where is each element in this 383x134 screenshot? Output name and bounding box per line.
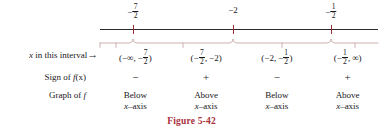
fraction: 72 (143, 49, 149, 65)
fraction-denominator: 2 (331, 12, 337, 20)
interval-left: −2 (264, 53, 274, 63)
row-graph-cells: Belowx–axis Abovex–axis Belowx–axis Abov… (100, 90, 383, 112)
axis-suffix: –axis (128, 101, 147, 111)
figure-caption: Figure 5-42 (0, 116, 383, 126)
axis-tick-3 (331, 25, 332, 34)
axis-suffix: –axis (199, 101, 218, 111)
fraction-denominator: 2 (342, 58, 348, 66)
fraction-denominator: 2 (199, 58, 205, 66)
comma: , (274, 53, 276, 63)
graph-axis-ref: x–axis (242, 101, 313, 112)
axis-tick-label-2-value: −2 (228, 5, 238, 15)
row-sign-label: Sign of f(x) (0, 72, 100, 82)
interval-cell-2: (−72, −2) (171, 49, 242, 65)
graph-axis-ref: x–axis (312, 101, 383, 112)
paren-close: ) (149, 53, 152, 63)
graph-cell-2: Abovex–axis (171, 90, 242, 112)
minus-sign: − (137, 53, 142, 63)
axis-tick-2 (233, 25, 234, 34)
row-interval-cells: (−∞, −72) (−72, −2) (−2, −12) (−12, ∞) (100, 49, 383, 65)
sign-cell-3: − (242, 72, 313, 83)
arrow-right-icon: → (87, 48, 98, 60)
graph-cell-4: Abovex–axis (312, 90, 383, 112)
axis-suffix: –axis (340, 101, 359, 111)
row-graph: Graph of f Belowx–axis Abovex–axis Below… (0, 90, 383, 112)
row-graph-label-prefix: Graph of (49, 90, 84, 100)
minus-sign: − (127, 7, 132, 17)
paren-close: ) (219, 53, 222, 63)
brace-svg (0, 36, 383, 48)
number-line-axis (100, 29, 378, 30)
axis-suffix: –axis (269, 101, 288, 111)
graph-cell-1: Belowx–axis (100, 90, 171, 112)
graph-cell-3: Belowx–axis (242, 90, 313, 112)
axis-tick-label-2: −2 (228, 6, 238, 15)
sign-chart-figure: −72 −2 −12 (0, 0, 383, 134)
interval-cell-3: (−2, −12) (242, 49, 313, 65)
fraction: 12 (331, 3, 337, 19)
graph-axis-ref: x–axis (100, 101, 171, 112)
axis-tick-label-3: −12 (325, 3, 336, 19)
sign-cell-1: − (100, 72, 171, 83)
fraction: 12 (342, 49, 348, 65)
comma: , (133, 53, 135, 63)
minus-sign: − (325, 7, 330, 17)
sign-cell-2: + (171, 72, 242, 83)
minus-sign: − (194, 53, 199, 63)
graph-position: Above (336, 90, 360, 100)
graph-position: Below (124, 90, 148, 100)
interval-cell-1: (−∞, −72) (100, 49, 171, 65)
row-sign: Sign of f(x) − + − + (0, 72, 383, 83)
row-sign-label-prefix: Sign of (44, 72, 73, 82)
graph-position: Above (194, 90, 218, 100)
minus-sign: − (337, 53, 342, 63)
axis-tick-1 (133, 25, 134, 34)
fraction-denominator: 2 (133, 12, 139, 20)
axis-tick-label-1: −72 (127, 3, 138, 19)
interval-left: −∞ (122, 53, 134, 63)
paren-close: ) (359, 53, 362, 63)
fraction-denominator: 2 (143, 58, 149, 66)
fraction: 72 (133, 3, 139, 19)
row-sign-cells: − + − + (100, 72, 383, 83)
comma: , (205, 53, 207, 63)
sign-cell-4: + (312, 72, 383, 83)
interval-cell-4: (−12, ∞) (312, 49, 383, 65)
graph-axis-ref: x–axis (171, 101, 242, 112)
row-interval-label-text: in this interval (33, 50, 87, 60)
row-interval-label: x in this interval→ (0, 49, 100, 60)
function-symbol: f (83, 90, 86, 100)
graph-position: Below (265, 90, 289, 100)
comma: , (348, 53, 350, 63)
minus-sign: − (278, 53, 283, 63)
interval-brace-strip (0, 36, 383, 48)
row-interval: x in this interval→ (−∞, −72) (−72, −2) … (0, 49, 383, 65)
interval-right: −2 (209, 53, 219, 63)
row-graph-label: Graph of f (0, 90, 100, 100)
fraction: 72 (199, 49, 205, 65)
paren-close: ) (289, 53, 292, 63)
row-sign-label-suffix: (x) (76, 72, 87, 82)
